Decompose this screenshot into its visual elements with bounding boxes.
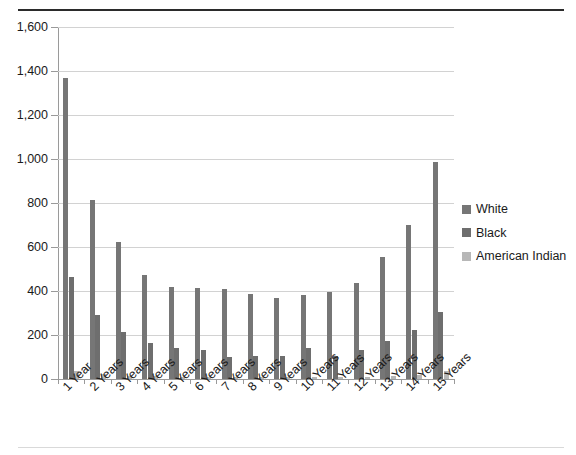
x-axis-tick: [58, 379, 59, 384]
x-axis-tick: [428, 379, 429, 384]
x-axis-tick: [216, 379, 217, 384]
y-axis-tick: [51, 379, 58, 380]
legend-swatch-icon: [462, 228, 471, 237]
y-axis-label: 1,400: [0, 64, 48, 78]
y-axis-tick: [51, 27, 58, 28]
y-axis-tick: [51, 247, 58, 248]
legend-item-label: White: [476, 203, 508, 216]
bar-group: [116, 27, 132, 379]
legend-item[interactable]: White: [462, 203, 566, 216]
y-axis-label: 1,000: [0, 152, 48, 166]
chart-legend: WhiteBlackAmerican Indian: [462, 203, 566, 274]
y-axis-tick: [51, 71, 58, 72]
legend-swatch-icon: [462, 252, 471, 261]
legend-item-label: Black: [476, 227, 507, 240]
y-axis-tick: [51, 291, 58, 292]
legend-item-label: American Indian: [476, 250, 566, 263]
x-axis-tick: [454, 379, 455, 384]
y-axis-tick: [51, 159, 58, 160]
bar: [69, 277, 74, 379]
bar-group: [248, 27, 264, 379]
y-axis-label: 600: [0, 240, 48, 254]
bar: [90, 200, 95, 379]
bar-group: [406, 27, 422, 379]
y-axis-tick: [51, 335, 58, 336]
legend-item[interactable]: Black: [462, 227, 566, 240]
y-axis-label: 1,200: [0, 108, 48, 122]
bar: [433, 162, 438, 379]
y-axis-label: 200: [0, 328, 48, 342]
bar-group: [90, 27, 106, 379]
plot-area: [58, 27, 454, 379]
bar-group: [301, 27, 317, 379]
y-axis-tick: [51, 203, 58, 204]
bar-group: [274, 27, 290, 379]
top-divider: [18, 9, 564, 11]
x-axis-tick: [296, 379, 297, 384]
bar-group: [63, 27, 79, 379]
x-axis-tick: [84, 379, 85, 384]
bar-group: [354, 27, 370, 379]
legend-item[interactable]: American Indian: [462, 250, 566, 263]
y-axis-label: 0: [0, 372, 48, 386]
chart-figure: WhiteBlackAmerican Indian 02004006008001…: [0, 0, 576, 455]
y-axis-tick: [51, 115, 58, 116]
x-axis-tick: [348, 379, 349, 384]
bar: [63, 78, 68, 379]
bar-group: [169, 27, 185, 379]
y-axis-label: 400: [0, 284, 48, 298]
bar-group: [433, 27, 449, 379]
x-axis-tick: [164, 379, 165, 384]
bar-group: [380, 27, 396, 379]
bar: [438, 312, 443, 379]
bar: [95, 315, 100, 379]
y-axis-label: 800: [0, 196, 48, 210]
bar-group: [142, 27, 158, 379]
bar-group: [195, 27, 211, 379]
legend-swatch-icon: [462, 205, 471, 214]
y-axis-label: 1,600: [0, 20, 48, 34]
bottom-divider: [18, 447, 564, 448]
bar-group: [327, 27, 343, 379]
bar-group: [222, 27, 238, 379]
